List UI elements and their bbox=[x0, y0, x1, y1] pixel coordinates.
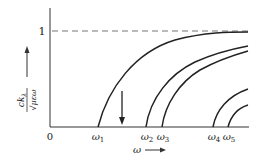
down-arrow-icon bbox=[119, 91, 125, 125]
cutoff-label-omega-4: ω4 bbox=[208, 131, 221, 144]
cutoff-label-omega-1: ω1 bbox=[92, 131, 105, 144]
up-arrow-icon bbox=[25, 46, 30, 77]
dispersion-diagram: 1 0 ckλ √μεω ω1 ω2 ω3 ω4 ω5 ω bbox=[0, 0, 259, 155]
origin-label: 0 bbox=[47, 131, 53, 142]
mode-curve-2 bbox=[146, 46, 248, 127]
mode-curve-3 bbox=[162, 51, 248, 127]
y-label-numerator-sub: λ bbox=[20, 93, 27, 98]
y-label-numerator: ck bbox=[16, 97, 26, 108]
cutoff-label-omega-2: ω2 bbox=[141, 131, 154, 144]
y-label-denominator: √μεω bbox=[29, 89, 38, 111]
mode-curve-5 bbox=[228, 105, 248, 127]
right-arrow-icon bbox=[145, 148, 166, 153]
mode-curve-1 bbox=[98, 32, 248, 127]
svg-text:ckλ: ckλ bbox=[16, 93, 27, 108]
x-axis-label: ω bbox=[133, 144, 141, 155]
cutoff-label-omega-3: ω3 bbox=[157, 131, 170, 144]
y-tick-label-1: 1 bbox=[39, 25, 46, 38]
y-axis-label: ckλ √μεω bbox=[16, 88, 38, 112]
cutoff-label-omega-5: ω5 bbox=[223, 131, 236, 144]
